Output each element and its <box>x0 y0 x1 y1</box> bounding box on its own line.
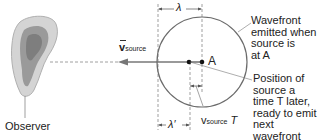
vector-bar <box>120 40 126 41</box>
observer-label: Observer <box>5 121 50 133</box>
point-a-label: A <box>208 56 216 68</box>
wavefront-annotation: Wavefront emitted when source is at A <box>251 15 316 61</box>
lambda-prime-label: λ′ <box>168 119 175 131</box>
ear-icon <box>11 16 57 118</box>
velocity-label: vsource <box>119 42 146 55</box>
position-annotation: Position of source a time T later, ready… <box>253 73 323 140</box>
vT-label: vsource T <box>201 115 237 128</box>
lambda-label: λ <box>176 2 181 14</box>
